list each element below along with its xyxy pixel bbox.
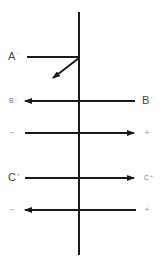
label-a-left: A− [8, 51, 19, 62]
a-diagonal-arrow [53, 58, 79, 78]
diagram-canvas [0, 0, 161, 268]
label-row3-right-plus: + [145, 129, 149, 136]
label-row3-left-minus: − [10, 129, 14, 136]
label-c-right: C+ [144, 174, 153, 181]
label-row5-left-minus: − [10, 206, 14, 213]
label-c-left: C+ [8, 172, 20, 183]
label-b-left: B− [9, 97, 18, 104]
label-row5-right-plus: + [145, 206, 149, 213]
label-b-right: B− [142, 95, 153, 106]
